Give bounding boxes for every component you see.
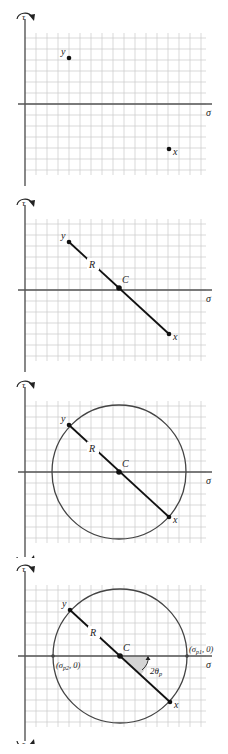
- panel-step-2-diameter: σττRCyx: [0, 186, 228, 372]
- panel-step-3-circle: σττRCyx: [0, 372, 228, 558]
- center-point: [116, 469, 122, 475]
- panel-step-4-principal-stresses: σττRCyx(σp1, 0)(σp2, 0)2θp: [0, 558, 228, 744]
- stress-point-x: [168, 700, 173, 705]
- radius-label: R: [88, 443, 95, 454]
- stress-point-y: [67, 423, 72, 428]
- point-label-y: y: [60, 413, 66, 424]
- sigma-label: σ: [206, 293, 212, 304]
- radius-label: R: [89, 627, 96, 638]
- point-label-x: x: [172, 331, 178, 342]
- sigma-p1-label: (σp1, 0): [189, 644, 213, 655]
- tau-rotation-top-icon: τ: [17, 564, 35, 574]
- stress-point-y: [68, 608, 73, 613]
- point-label-x: x: [172, 146, 178, 157]
- stress-point-y: [67, 240, 72, 245]
- point-label-y: y: [60, 230, 66, 241]
- center-label: C: [122, 274, 129, 285]
- tau-rotation-top-icon: τ: [17, 380, 35, 390]
- stress-point-y: [67, 56, 72, 61]
- point-label-x: x: [172, 514, 178, 525]
- panel-step-1-plot-points: σττyx: [0, 0, 228, 186]
- tau-rotation-bottom-icon: τ: [17, 739, 35, 744]
- tau-rotation-top-icon: τ: [17, 12, 35, 22]
- radius-label: R: [88, 259, 95, 270]
- sigma-p2-label: (σp2, 0): [56, 660, 80, 671]
- center-label: C: [122, 458, 129, 469]
- sigma-label: σ: [206, 659, 212, 670]
- center-point: [117, 653, 123, 659]
- stress-point-x: [167, 332, 172, 337]
- center-point: [116, 285, 122, 291]
- tau-rotation-top-icon: τ: [17, 198, 35, 208]
- angle-label: 2θp: [150, 666, 162, 677]
- stress-point-x: [167, 515, 172, 520]
- point-label-x: x: [173, 699, 179, 710]
- stress-point-x: [167, 147, 172, 152]
- point-label-y: y: [61, 598, 67, 609]
- sigma-label: σ: [206, 475, 212, 486]
- center-label: C: [123, 642, 130, 653]
- sigma-label: σ: [206, 107, 212, 118]
- point-label-y: y: [60, 46, 66, 57]
